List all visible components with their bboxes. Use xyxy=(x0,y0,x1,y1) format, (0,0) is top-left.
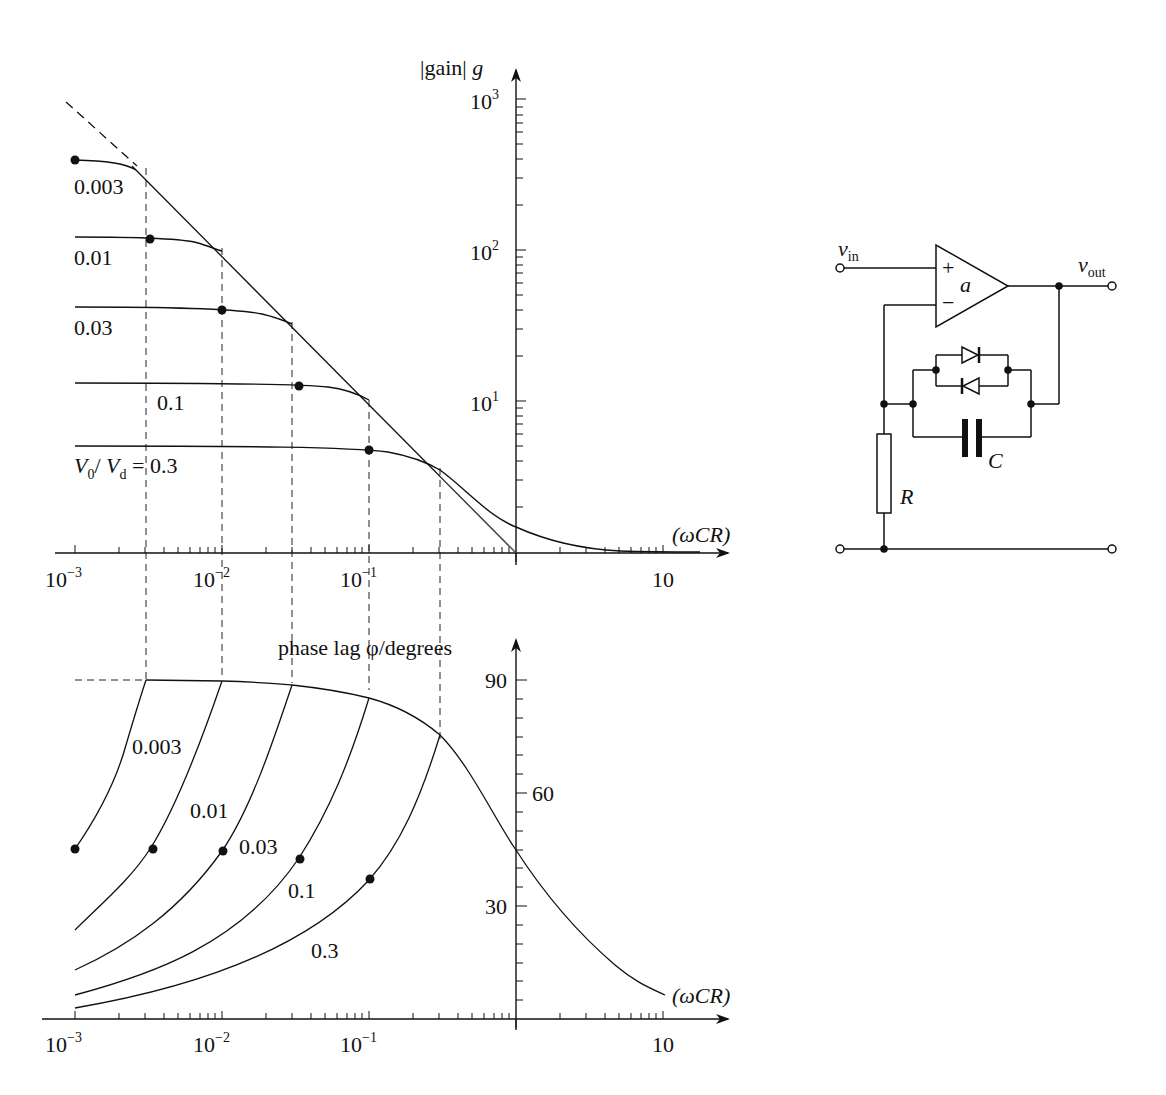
phase-curve-label-0.1: 0.1 xyxy=(288,878,316,903)
gain-ytick-1000: 103 xyxy=(470,87,499,114)
phase-curve-label-0.003: 0.003 xyxy=(132,734,182,759)
gain-ytick-100: 102 xyxy=(470,238,499,265)
vin-terminal xyxy=(836,264,844,272)
capacitor-plate-right xyxy=(976,419,982,457)
gain-xtick-10: 10 xyxy=(652,567,674,592)
gain-xtick-1e-1: 10−1 xyxy=(340,565,377,592)
plus-input-label: + xyxy=(942,255,954,280)
gain-param-label: V0/ Vd = 0.3 xyxy=(74,453,177,482)
gain-curve-label-0.1: 0.1 xyxy=(157,390,185,415)
capacitor-plate-left xyxy=(962,419,968,457)
phase-ytick-90: 90 xyxy=(485,668,507,693)
phase-xtick-1e-2: 10−2 xyxy=(193,1030,230,1057)
resistor-label: R xyxy=(899,484,914,509)
gain-y-ticks xyxy=(516,99,526,507)
phase-curve-0.003 xyxy=(75,680,146,849)
circuit-diagram xyxy=(836,245,1116,553)
vout-terminal xyxy=(1108,282,1116,290)
gain-curve-label-0.01: 0.01 xyxy=(74,245,113,270)
phase-y-ticks xyxy=(516,680,527,1000)
phase-y-label: phase lag φ/degrees xyxy=(278,635,452,660)
gain-curve-0.003 xyxy=(75,160,136,170)
asymptote-thin xyxy=(440,476,516,553)
gain-ytick-10: 101 xyxy=(470,389,499,416)
gain-curves xyxy=(75,160,700,552)
gain-x-label: (ωCR) xyxy=(672,522,730,547)
phase-curve-0.3 xyxy=(75,735,440,1008)
gain-xtick-1e-2: 10−2 xyxy=(193,565,230,592)
vin-label: vin xyxy=(838,236,859,264)
phase-markers xyxy=(71,845,375,884)
ground-terminal-right xyxy=(1108,545,1116,553)
ground-terminal-left xyxy=(836,545,844,553)
gain-curve-label-0.03: 0.03 xyxy=(74,315,113,340)
capacitor-label: C xyxy=(988,448,1003,473)
phase-curve-label-0.3: 0.3 xyxy=(311,938,339,963)
vout-label: vout xyxy=(1078,252,1106,280)
diode-reverse xyxy=(963,378,979,394)
phase-x-label: (ωCR) xyxy=(672,983,730,1008)
phase-xtick-10: 10 xyxy=(652,1032,674,1057)
gain-curve-label-0.003: 0.003 xyxy=(74,174,124,199)
gain-xtick-1e-3: 10−3 xyxy=(45,565,82,592)
diode-forward xyxy=(962,347,978,363)
phase-curve-0.03 xyxy=(75,685,292,970)
phase-plot: phase lag φ/degrees 90 60 30 10−3 10−2 1… xyxy=(42,635,730,1057)
amp-gain-label: a xyxy=(960,272,971,297)
figure-canvas: |gain| g 103 102 101 10−3 10−2 10−1 10 (… xyxy=(0,0,1166,1095)
gain-y-label: |gain| g xyxy=(420,55,483,80)
phase-curves xyxy=(75,680,665,1008)
phase-xtick-1e-1: 10−1 xyxy=(340,1030,377,1057)
phase-xtick-1e-3: 10−3 xyxy=(45,1030,82,1057)
phase-ytick-30: 30 xyxy=(485,894,507,919)
phase-envelope xyxy=(146,680,665,995)
resistor-symbol xyxy=(877,434,891,513)
phase-curve-label-0.03: 0.03 xyxy=(239,834,278,859)
phase-curve-label-0.01: 0.01 xyxy=(190,798,229,823)
phase-ytick-60: 60 xyxy=(532,781,554,806)
minus-input-label: − xyxy=(942,290,954,315)
